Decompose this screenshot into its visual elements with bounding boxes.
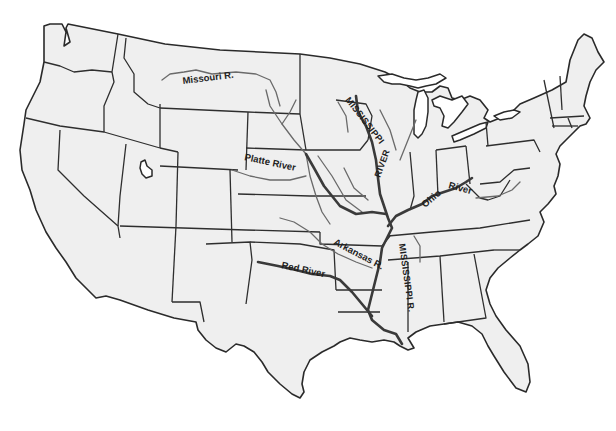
us-river-map: Missouri R. Platte River MISSISSIPPI RIV…	[0, 0, 616, 431]
us-landmass	[20, 24, 604, 398]
